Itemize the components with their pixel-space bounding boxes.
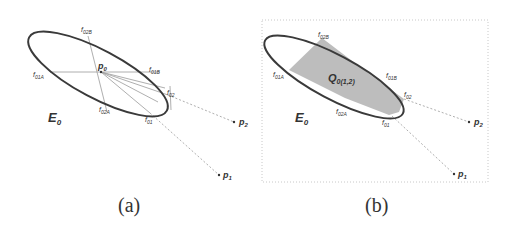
- label-f02a: f02A: [336, 108, 348, 117]
- label-e0: E0: [48, 110, 62, 127]
- label-f02b: f02B: [81, 26, 93, 35]
- label-f01: f01: [382, 119, 390, 128]
- panel-b: p2 p1 f02B f01B f01A f02A f02 f01 Q0(1,2…: [255, 20, 488, 217]
- label-f01b: f01B: [386, 72, 398, 81]
- label-p2: p2: [238, 117, 249, 128]
- point-p1: [453, 173, 455, 175]
- label-p1: p1: [222, 170, 233, 181]
- label-f02a: f02A: [99, 106, 111, 115]
- label-p0: p0: [97, 61, 108, 72]
- label-f02b: f02B: [318, 31, 330, 40]
- label-p1: p1: [457, 169, 468, 180]
- point-p0: [100, 71, 102, 73]
- label-f01b: f01B: [149, 66, 161, 75]
- label-p2: p2: [473, 117, 484, 128]
- point-p2: [468, 121, 470, 123]
- construction-lines: [50, 36, 234, 175]
- point-p2: [233, 121, 235, 123]
- label-f02: f02: [404, 91, 412, 100]
- caption-b: (b): [365, 194, 388, 217]
- panel-a: p0 p2 p1 f02B f01B f01A f02A f02 f01 E0 …: [18, 16, 249, 217]
- point-p1: [218, 174, 220, 176]
- figure: p0 p2 p1 f02B f01B f01A f02A f02 f01 E0 …: [0, 0, 509, 232]
- label-f02: f02: [167, 89, 175, 98]
- label-f01a: f01A: [33, 71, 45, 80]
- label-f01a: f01A: [273, 71, 285, 80]
- caption-a: (a): [118, 194, 140, 217]
- label-e0: E0: [295, 110, 309, 127]
